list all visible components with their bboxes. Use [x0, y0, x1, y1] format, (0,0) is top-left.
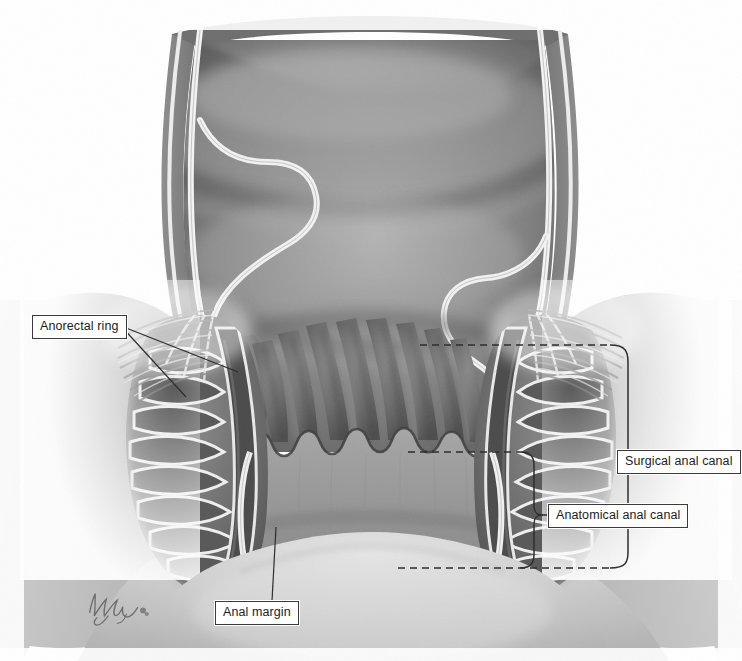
- label-surgical-anal-canal: Surgical anal canal: [617, 450, 741, 474]
- label-anatomical-anal-canal: Anatomical anal canal: [548, 504, 688, 528]
- label-anal-margin: Anal margin: [215, 601, 299, 625]
- label-anorectal-ring: Anorectal ring: [32, 315, 127, 339]
- anatomical-figure: Anorectal ring Surgical anal canal Anato…: [0, 0, 742, 661]
